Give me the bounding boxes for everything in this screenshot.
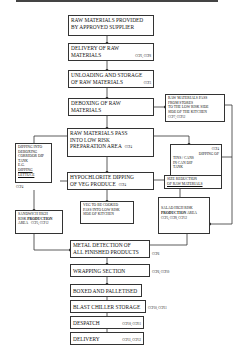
ccp-label: CCP4 bbox=[119, 183, 126, 187]
node-text: DELIVERY bbox=[73, 336, 100, 342]
node-text: DELIVERY OF RAW bbox=[71, 45, 151, 52]
node-text: METAL DETECTION OF bbox=[73, 242, 147, 249]
node-boxed-palletised: BOXED AND PALLETISED bbox=[70, 284, 142, 297]
node-text: HYPOCHLORITE DIPPING bbox=[70, 174, 151, 181]
node-veg-cooked: VEG TO BE COOKED PASS INTO LOW RISK SIDE… bbox=[80, 201, 134, 224]
node-salad-production: SALAD HIGH RISK PRODUCTION AREA CCP5, CC… bbox=[158, 197, 210, 234]
node-text: PRODUCTION bbox=[27, 217, 52, 221]
node-metal-detection: METAL DETECTION OF ALL FINISHED PRODUCTS bbox=[70, 240, 150, 258]
ccp-label: CCP10, CCP11 bbox=[122, 321, 141, 328]
node-raw-pass-from-stores: RAW MATERIALS PASS FROM STORES TO THE LO… bbox=[165, 94, 225, 122]
node-text: SIDE OF THE KITCHEN bbox=[168, 110, 222, 115]
node-despatch: DESPATCHCCP10, CCP11 bbox=[70, 316, 144, 329]
node-text: TANK bbox=[173, 165, 219, 170]
node-dipping-tins: CCP4 DIPPING OF TINS / CANS IN CAN DIP T… bbox=[170, 144, 222, 177]
node-text: PREPARATION AREA bbox=[70, 143, 122, 149]
node-text: BLAST CHILLER STORAGE bbox=[73, 304, 143, 311]
node-text: OF VEG PRODUCE bbox=[70, 181, 116, 187]
node-delivery-raw-materials: DELIVERY OF RAW MATERIALSCCP1, CCP8 bbox=[68, 43, 154, 61]
node-text: ALL FINISHED PRODUCTS bbox=[73, 249, 147, 256]
node-text: BY APPROVED SUPPLIER bbox=[71, 24, 151, 31]
node-text: DESPATCH bbox=[73, 320, 100, 326]
ccp-label: CCP6 bbox=[152, 252, 159, 256]
ccp-label: CCP5, CCP12 bbox=[31, 221, 48, 225]
node-text: UNLOADING AND STORAGE bbox=[71, 72, 151, 79]
node-unloading-storage: UNLOADING AND STORAGE OF RAW MATERIALSCC… bbox=[68, 70, 154, 88]
node-text: WRAPPING SECTION bbox=[73, 268, 147, 275]
ccp-label: CCP10, CCP11 bbox=[148, 306, 167, 310]
node-text: DIPPING LETTUCE bbox=[18, 168, 49, 177]
node-text: AREA bbox=[186, 211, 197, 215]
node-blast-chiller: BLAST CHILLER STORAGE bbox=[70, 300, 146, 313]
node-text: MATERIALS bbox=[71, 107, 151, 114]
node-low-risk-preparation: RAW MATERIALS PASS INTO LOW RISK PREPARA… bbox=[67, 128, 154, 157]
node-deboxing: DEBOXING OF RAW MATERIALS bbox=[68, 98, 154, 116]
ccp-label: CCP6, CCP10 bbox=[152, 270, 169, 274]
ccp-label: CCP5, CCP8, CCP12 bbox=[161, 216, 207, 221]
ccp-label: CCP1, CCP8 bbox=[135, 53, 151, 60]
node-wrapping: WRAPPING SECTION bbox=[70, 264, 150, 277]
node-text: AREA bbox=[18, 221, 28, 225]
ccp-label: CCP7, CCP12 bbox=[168, 115, 222, 120]
ccp-label: CCP4 bbox=[16, 185, 23, 189]
node-text: DEBOXING OF RAW bbox=[71, 100, 151, 107]
node-text: RISK bbox=[18, 217, 27, 221]
node-delivery: DELIVERYCCP11, CCP12 bbox=[70, 332, 144, 345]
node-text: MATERIALS bbox=[71, 52, 101, 58]
ccp-label: CCP3 bbox=[144, 80, 151, 87]
node-text: RAW MATERIALS PASS bbox=[70, 130, 151, 137]
node-sandwich-production: SANDWICH HIGH RISK PRODUCTION AREACCP5, … bbox=[15, 210, 63, 234]
node-text: RAW MATERIALS PROVIDED bbox=[71, 17, 151, 24]
ccp-label: CCP4 bbox=[125, 145, 132, 149]
node-text: BOXED AND PALLETISED bbox=[73, 288, 139, 295]
node-dipping-corridor: DIPPING INTO DEBOXING CORRIDOR DIP TANK … bbox=[15, 143, 52, 183]
node-size-reduction: SIZE REDUCTION OF RAW MATERIALS bbox=[164, 175, 222, 189]
node-raw-materials-provided: RAW MATERIALS PROVIDED BY APPROVED SUPPL… bbox=[68, 15, 154, 36]
node-text: OF RAW MATERIALS bbox=[71, 79, 123, 85]
node-text: SIDE OF KITCHEN bbox=[83, 212, 131, 217]
ccp-label: CCP11, CCP12 bbox=[122, 337, 141, 344]
node-text: INTO LOW RISK bbox=[70, 137, 151, 144]
node-text: PRODUCTION bbox=[161, 211, 186, 215]
node-text: OF RAW MATERIALS bbox=[167, 182, 219, 187]
node-hypochlorite-dipping: HYPOCHLORITE DIPPING OF VEG PRODUCECCP4 bbox=[67, 172, 154, 190]
